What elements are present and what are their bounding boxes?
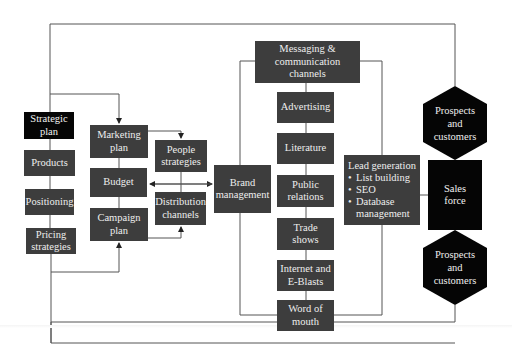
distribution-channels-box: Distribution channels — [155, 192, 206, 225]
pricing-strategies-box: Pricing strategies — [26, 228, 76, 254]
channel-public-relations-box: Public relations — [277, 175, 334, 207]
budget-label: Budget — [103, 176, 133, 189]
channel-word-of-mouth-box: Word of mouth — [277, 300, 334, 331]
channel-public-relations-label: Public relations — [286, 179, 326, 204]
channel-trade-shows-box: Trade shows — [277, 218, 334, 250]
positioning-box: Positioning — [25, 189, 74, 215]
marketing-plan-box: Marketing plan — [90, 125, 148, 158]
people-strategies-box: People strategies — [155, 140, 207, 172]
campaign-plan-box: Campaign plan — [90, 208, 148, 241]
channel-word-of-mouth-label: Word of mouth — [286, 303, 326, 328]
positioning-label: Positioning — [26, 196, 74, 209]
bullet-database-management: Database management — [348, 196, 416, 220]
products-box: Products — [24, 150, 75, 176]
campaign-plan-label: Campaign plan — [92, 212, 146, 237]
strategic-plan-label: Strategic plan — [26, 113, 72, 138]
channel-literature-label: Literature — [285, 142, 326, 155]
prospects-customers-top-label: Prospects and customers — [430, 104, 480, 143]
budget-box: Budget — [90, 168, 147, 197]
prospects-customers-bottom-hexagon: Prospects and customers — [423, 230, 487, 305]
brand-management-box: Brand management — [214, 165, 271, 213]
sales-force-label: Sales force — [440, 183, 470, 208]
channel-literature-box: Literature — [277, 133, 334, 164]
lead-generation-box: Lead generation List building SEO Databa… — [344, 155, 420, 225]
channel-trade-shows-label: Trade shows — [288, 222, 324, 247]
brand-management-label: Brand management — [216, 177, 270, 202]
lead-generation-bullets: List building SEO Database management — [348, 172, 416, 220]
channel-advertising-label: Advertising — [281, 101, 331, 114]
strategic-plan-box: Strategic plan — [24, 112, 74, 139]
marketing-plan-label: Marketing plan — [92, 129, 146, 154]
channel-internet-box: Internet and E-Blasts — [277, 260, 334, 291]
people-strategies-label: People strategies — [157, 144, 205, 169]
marketing-diagram: Strategic plan Products Positioning Pric… — [0, 0, 512, 347]
sales-force-box: Sales force — [428, 160, 482, 230]
prospects-customers-bottom-label: Prospects and customers — [430, 248, 480, 287]
bullet-list-building: List building — [348, 172, 416, 184]
messaging-channels-label: Messaging & communication channels — [268, 43, 348, 81]
bullet-seo: SEO — [348, 184, 416, 196]
channel-advertising-box: Advertising — [277, 92, 334, 123]
baseline-shadow — [0, 325, 512, 328]
lead-generation-title: Lead generation — [348, 159, 416, 172]
channel-internet-label: Internet and E-Blasts — [280, 263, 332, 288]
distribution-channels-label: Distribution channels — [155, 196, 206, 221]
messaging-channels-box: Messaging & communication channels — [255, 41, 360, 83]
prospects-customers-top-hexagon: Prospects and customers — [423, 86, 487, 160]
products-label: Products — [31, 157, 68, 170]
pricing-strategies-label: Pricing strategies — [28, 229, 74, 254]
